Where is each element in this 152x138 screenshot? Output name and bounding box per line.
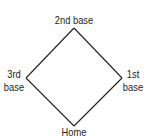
edge-third-to-second <box>26 28 74 78</box>
first-base-label: 1st base <box>120 68 146 94</box>
third-base-text-line1: 3rd <box>2 68 26 81</box>
first-base-text-line1: 1st <box>120 68 146 81</box>
edge-home-to-third <box>26 78 74 126</box>
third-base-label: 3rd base <box>2 68 26 94</box>
second-base-label: 2nd base <box>49 14 100 26</box>
second-base-text: 2nd base <box>55 14 93 26</box>
home-plate-label: Home <box>57 126 91 138</box>
baseball-diamond-diagram: 2nd base 3rd base 1st base Home <box>0 0 152 138</box>
third-base-text-line2: base <box>2 81 26 94</box>
home-plate-text: Home <box>62 126 87 138</box>
edge-first-to-home <box>74 78 122 126</box>
first-base-text-line2: base <box>120 81 146 94</box>
edge-second-to-first <box>74 28 122 78</box>
